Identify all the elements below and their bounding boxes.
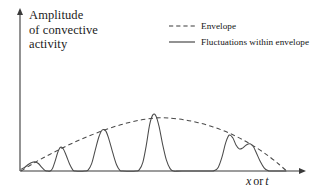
convective-activity-figure: Amplitude of convective activity Envelop… [0, 0, 316, 194]
x-axis-arrowhead [299, 168, 306, 174]
x-axis-label-var2: t [265, 174, 268, 188]
legend-item-envelope: Envelope [168, 18, 314, 34]
y-axis-label: Amplitude of convective activity [29, 8, 149, 52]
x-axis-label: xort [246, 174, 269, 189]
solid-line-icon [168, 36, 196, 48]
legend-item-fluctuations: Fluctuations within envelope [168, 34, 314, 50]
y-axis-arrowhead [17, 8, 23, 15]
dashed-line-icon [168, 20, 196, 32]
legend: Envelope Fluctuations within envelope [168, 18, 314, 50]
x-axis-label-conjunction: or [251, 174, 265, 188]
legend-label-fluctuations: Fluctuations within envelope [201, 37, 309, 47]
legend-label-envelope: Envelope [201, 21, 236, 31]
fluctuations-curve [21, 114, 286, 171]
